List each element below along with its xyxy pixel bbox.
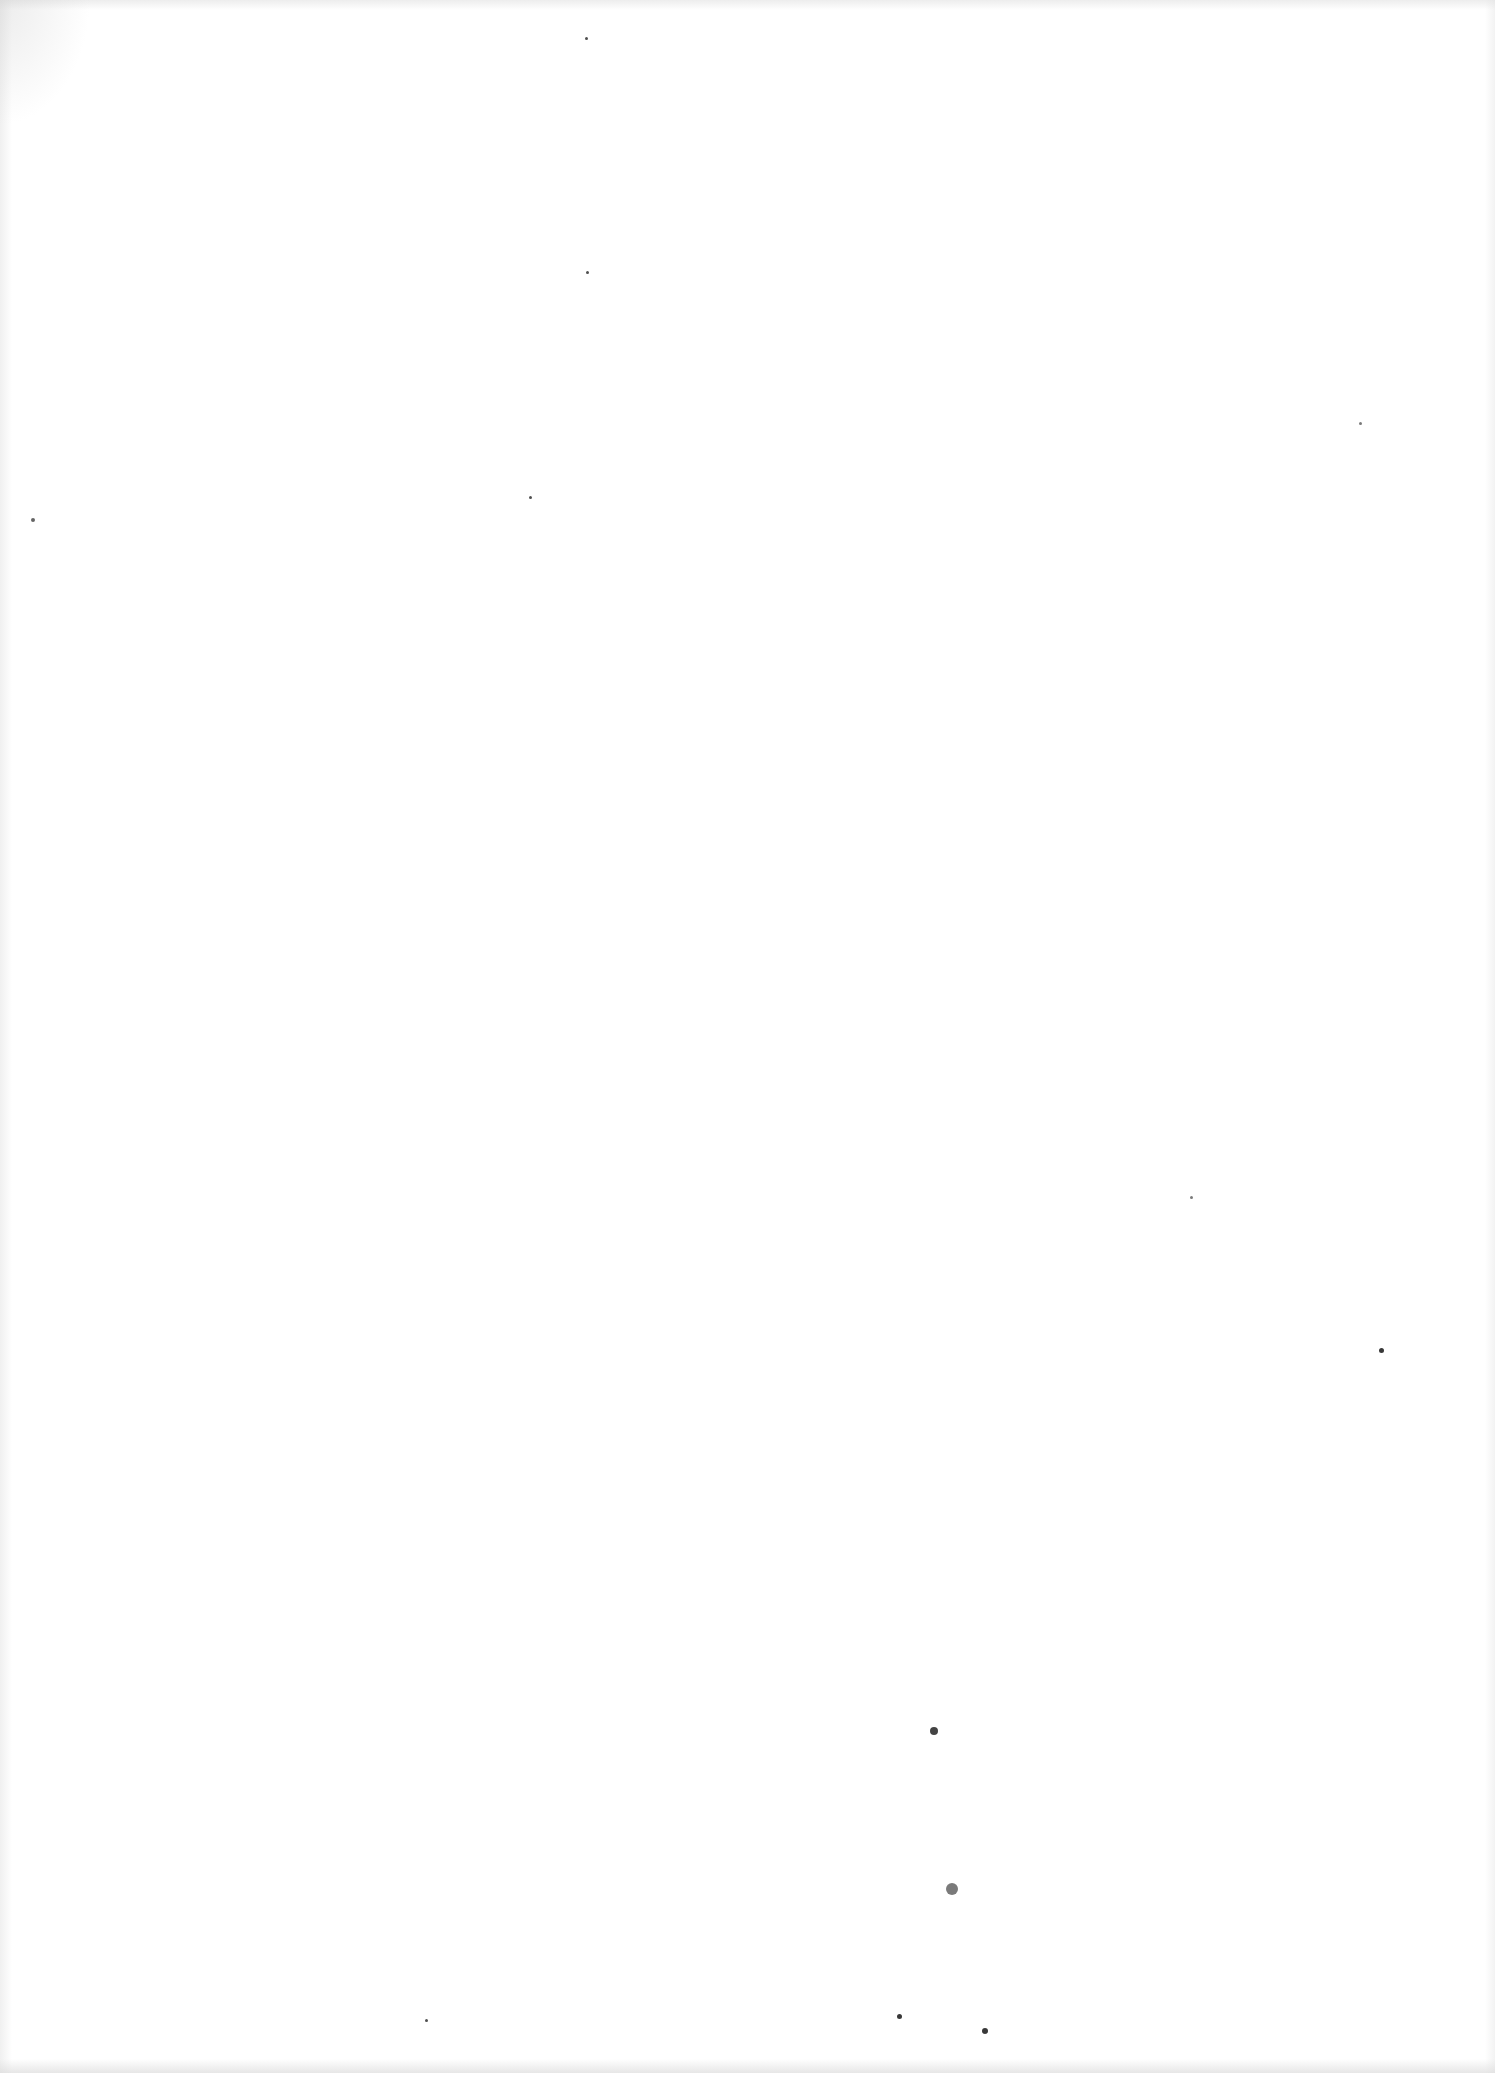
blank-scanned-page bbox=[0, 0, 1495, 2073]
scan-speck bbox=[586, 271, 589, 274]
scan-speck bbox=[1379, 1348, 1384, 1353]
scan-speck bbox=[425, 2019, 428, 2022]
scan-speck bbox=[585, 37, 588, 40]
scan-speck bbox=[930, 1727, 938, 1735]
scan-speck bbox=[529, 496, 532, 499]
scan-speck bbox=[1359, 422, 1362, 425]
scan-speck bbox=[982, 2028, 988, 2034]
scan-speck bbox=[946, 1883, 958, 1895]
scan-speck bbox=[1190, 1196, 1193, 1199]
scan-speck bbox=[897, 2014, 902, 2019]
scan-speck bbox=[31, 518, 35, 522]
